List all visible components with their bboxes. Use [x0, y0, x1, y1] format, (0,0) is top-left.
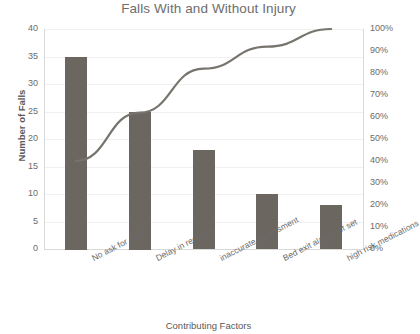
cumulative-percent-line [76, 29, 331, 161]
